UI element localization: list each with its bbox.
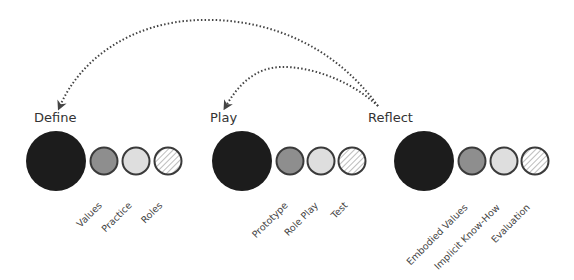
stage-reflect (394, 131, 549, 191)
stage-title-define: Define (34, 110, 76, 125)
circle-embodied-values (459, 148, 486, 175)
big-circle-reflect (394, 131, 454, 191)
big-circle-define (26, 131, 86, 191)
stage-define (26, 131, 182, 191)
circle-implicit-know-how (491, 148, 518, 175)
circle-practice (123, 148, 150, 175)
stage-play (212, 131, 366, 191)
stage-title-play: Play (210, 110, 237, 125)
arrow-reflect-to-play (226, 67, 378, 106)
circle-prototype (277, 148, 304, 175)
circle-values (91, 148, 118, 175)
stage-title-reflect: Reflect (368, 110, 413, 125)
circle-roles (155, 148, 182, 175)
diagram-canvas (0, 0, 574, 280)
circle-test (339, 148, 366, 175)
arrow-reflect-to-define (60, 20, 378, 106)
circle-evaluation (522, 148, 549, 175)
big-circle-play (212, 131, 272, 191)
circle-role-play (308, 148, 335, 175)
